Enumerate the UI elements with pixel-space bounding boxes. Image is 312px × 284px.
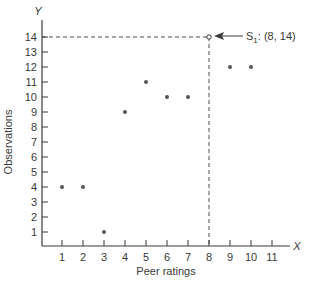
x-ticks: 1234567891011 (59, 240, 278, 263)
x-axis-letter: X (292, 240, 301, 252)
y-tick-label: 11 (26, 76, 37, 88)
y-tick-label: 12 (25, 61, 37, 73)
x-tick-label: 2 (80, 251, 86, 263)
y-tick-label: 8 (31, 121, 37, 133)
x-tick-label: 9 (227, 251, 233, 263)
x-tick-label: 8 (206, 251, 212, 263)
y-axis-letter: Y (34, 5, 42, 17)
y-tick-label: 10 (25, 91, 37, 103)
data-point (102, 230, 106, 234)
data-point (81, 185, 85, 189)
y-tick-label: 6 (31, 151, 37, 163)
scatter-chart: 1234567891011 1234567891011121314 Y X Pe… (0, 0, 312, 284)
data-point (144, 80, 148, 84)
data-point (249, 65, 253, 69)
highlight-guides (42, 37, 209, 246)
x-tick-label: 11 (266, 251, 277, 263)
x-tick-label: 5 (143, 251, 149, 263)
data-point (228, 65, 232, 69)
y-tick-label: 14 (25, 31, 37, 43)
x-tick-label: 10 (245, 251, 257, 263)
y-axis-title: Observations (2, 109, 14, 174)
data-points (60, 65, 253, 234)
axes (42, 20, 290, 246)
x-axis-title: Peer ratings (136, 265, 196, 277)
data-point (123, 110, 127, 114)
y-tick-label: 13 (25, 46, 37, 58)
y-tick-label: 2 (31, 211, 37, 223)
highlighted-point (207, 35, 211, 39)
data-point (60, 185, 64, 189)
x-tick-label: 6 (164, 251, 170, 263)
annotation-label: S1: (8, 14) (246, 30, 296, 45)
y-ticks: 1234567891011121314 (25, 31, 48, 238)
y-tick-label: 4 (31, 181, 37, 193)
highlight-point-marker (207, 35, 211, 39)
x-tick-label: 3 (101, 251, 107, 263)
y-tick-label: 9 (31, 106, 37, 118)
y-tick-label: 3 (31, 196, 37, 208)
data-point (186, 95, 190, 99)
data-point (165, 95, 169, 99)
x-tick-label: 1 (59, 251, 65, 263)
y-tick-label: 5 (31, 166, 37, 178)
y-tick-label: 1 (31, 226, 37, 238)
y-tick-label: 7 (31, 136, 37, 148)
x-tick-label: 7 (185, 251, 191, 263)
x-tick-label: 4 (122, 251, 128, 263)
annotation-s1: S1: (8, 14) (214, 30, 296, 45)
